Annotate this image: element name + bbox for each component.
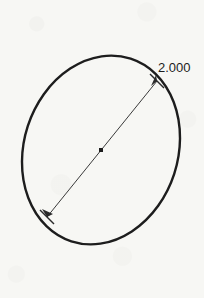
center-point-marker[interactable] <box>99 148 103 152</box>
drawing-canvas: 2.000 <box>0 0 204 298</box>
dimension-value-label[interactable]: 2.000 <box>158 60 191 75</box>
cad-drawing-svg[interactable]: 2.000 <box>0 0 204 298</box>
